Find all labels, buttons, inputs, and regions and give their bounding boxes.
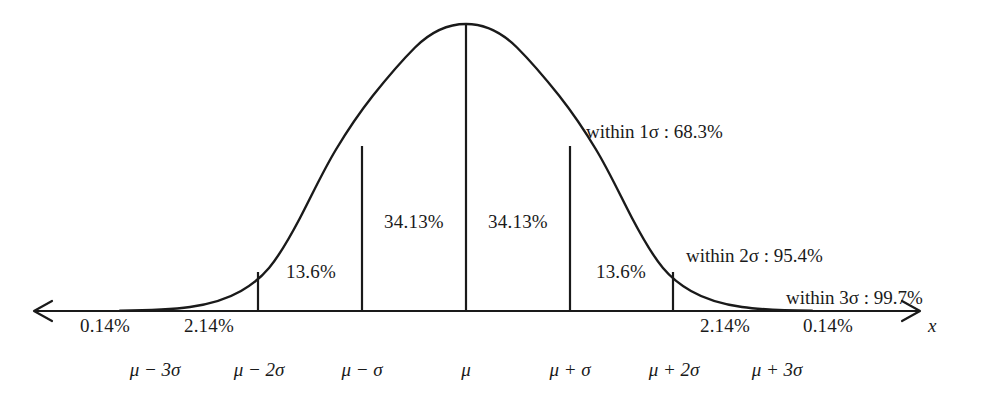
x-tick-label-plus-2sigma: μ + 2σ	[649, 360, 700, 379]
x-tick-label-plus-3sigma: μ + 3σ	[752, 360, 803, 379]
x-tick-label-mu: μ	[461, 360, 471, 379]
distribution-curve-svg	[0, 0, 989, 396]
x-tick-label-plus-1sigma: μ + σ	[549, 360, 590, 379]
normal-distribution-figure: 0.14% 2.14% 13.6% 34.13% 34.13% 13.6% 2.…	[0, 0, 989, 396]
x-tick-label-minus-1sigma: μ − σ	[341, 360, 382, 379]
annotation-within-2sigma: within 2σ : 95.4%	[686, 246, 823, 265]
pct-label-left-1to0: 34.13%	[384, 212, 444, 231]
annotation-within-3sigma: within 3σ : 99.7%	[786, 288, 923, 307]
pct-label-right-1to2: 13.6%	[596, 262, 646, 281]
x-tick-label-minus-2sigma: μ − 2σ	[234, 360, 285, 379]
pct-label-left-3to2: 2.14%	[184, 316, 234, 335]
x-tick-label-minus-3sigma: μ − 3σ	[130, 360, 181, 379]
pct-label-right-2to3: 2.14%	[700, 316, 750, 335]
pct-label-left-2to1: 13.6%	[286, 262, 336, 281]
annotation-within-1sigma: within 1σ : 68.3%	[586, 122, 723, 141]
pct-label-right-0to1: 34.13%	[488, 212, 548, 231]
axis-label-x: x	[928, 316, 936, 335]
pct-label-right-outer: 0.14%	[803, 316, 853, 335]
pct-label-left-outer: 0.14%	[80, 316, 130, 335]
